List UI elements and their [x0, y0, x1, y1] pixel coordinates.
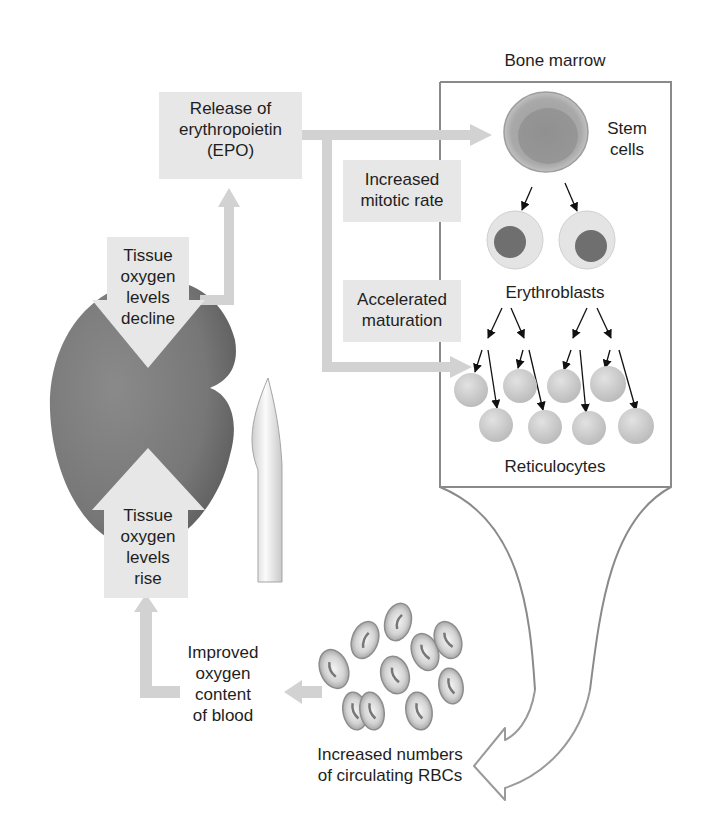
bone-marrow-label: Bone marrow	[480, 50, 630, 71]
stem-cells-label: Stem cells	[592, 118, 662, 160]
release-epo-label: Release of erythropoietin (EPO)	[159, 92, 302, 179]
reticulocyte-cells	[454, 366, 654, 445]
reticulocytes-label: Reticulocytes	[480, 456, 630, 477]
tissue-oxygen-decline-label: Tissue oxygen levels decline	[96, 245, 200, 329]
accelerated-maturation-label: Accelerated maturation	[343, 280, 461, 342]
increased-mitotic-rate-label: Increased mitotic rate	[343, 160, 461, 222]
red-blood-cells	[314, 600, 467, 732]
stem-cell	[504, 92, 588, 172]
erythroblasts-label: Erythroblasts	[480, 282, 630, 303]
tissue-oxygen-rise-label: Tissue oxygen levels rise	[96, 505, 200, 589]
increased-rbcs-label: Increased numbers of circulating RBCs	[290, 744, 490, 786]
improved-oxygen-label: Improved oxygen content of blood	[168, 642, 278, 726]
erythroblast-cells	[487, 211, 615, 269]
funnel-arrow-icon	[474, 690, 590, 800]
